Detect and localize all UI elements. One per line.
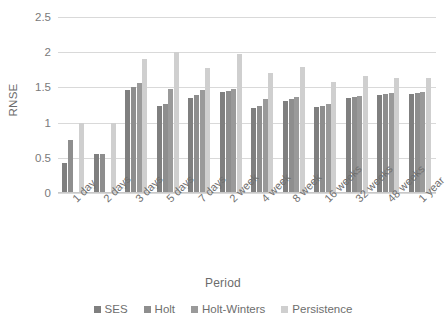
bar-group	[247, 17, 279, 193]
bar	[62, 163, 67, 193]
y-axis-tick-labels: 00.511.522.5	[24, 11, 54, 195]
bar	[420, 92, 425, 193]
legend-swatch-icon	[191, 306, 198, 313]
bar	[205, 68, 210, 193]
x-axis-title: Period	[0, 276, 446, 290]
y-tick-label: 1.5	[35, 81, 51, 93]
legend-label: Persistence	[292, 303, 352, 315]
legend-swatch-icon	[281, 306, 288, 313]
legend-swatch-icon	[94, 306, 101, 313]
bar	[268, 73, 273, 193]
bar	[168, 89, 173, 193]
bar	[263, 99, 268, 193]
legend-item[interactable]: Holt-Winters	[191, 303, 265, 315]
bars-layer	[58, 17, 436, 193]
bar	[174, 52, 179, 193]
bar-group	[153, 17, 185, 193]
bar-group	[216, 17, 248, 193]
legend-swatch-icon	[144, 306, 151, 313]
bar	[200, 90, 205, 193]
bar-chart: RNSE 00.511.522.5 1 day2 days3 days5 day…	[0, 0, 446, 332]
bar	[426, 78, 431, 193]
legend-label: SES	[105, 303, 128, 315]
bar	[394, 78, 399, 193]
legend-item[interactable]: SES	[94, 303, 128, 315]
bar	[131, 87, 136, 193]
bar-group	[58, 17, 90, 193]
y-tick-label: 2.5	[35, 11, 51, 23]
bar-group	[279, 17, 311, 193]
bar	[357, 96, 362, 193]
bar	[237, 54, 242, 193]
bar	[326, 104, 331, 193]
legend-label: Holt	[155, 303, 175, 315]
chart-legend: SESHoltHolt-WintersPersistence	[0, 303, 446, 315]
x-axis-title-text: Period	[205, 276, 241, 290]
bar	[68, 140, 73, 193]
bar	[294, 97, 299, 193]
bar	[363, 76, 368, 193]
y-tick-label: 0	[45, 187, 51, 199]
bar	[142, 59, 147, 193]
y-tick-label: 0.5	[35, 152, 51, 164]
bar	[226, 91, 231, 193]
y-axis-title: RNSE	[2, 0, 24, 200]
plot-area	[58, 17, 436, 193]
bar	[331, 82, 336, 193]
bar-group	[184, 17, 216, 193]
bar-group	[310, 17, 342, 193]
bar	[231, 89, 236, 193]
bar	[194, 95, 199, 193]
bar-group	[90, 17, 122, 193]
x-axis-tick-labels: 1 day2 days3 days5 days7 days2 week4 wee…	[58, 196, 436, 266]
y-axis-title-text: RNSE	[7, 84, 19, 117]
bar	[137, 83, 142, 193]
y-tick-label: 1	[45, 117, 51, 129]
bar	[389, 93, 394, 193]
legend-label: Holt-Winters	[202, 303, 265, 315]
legend-item[interactable]: Persistence	[281, 303, 352, 315]
bar	[300, 67, 305, 193]
bar	[100, 154, 105, 193]
bar-group	[121, 17, 153, 193]
y-tick-label: 2	[45, 46, 51, 58]
legend-item[interactable]: Holt	[144, 303, 175, 315]
